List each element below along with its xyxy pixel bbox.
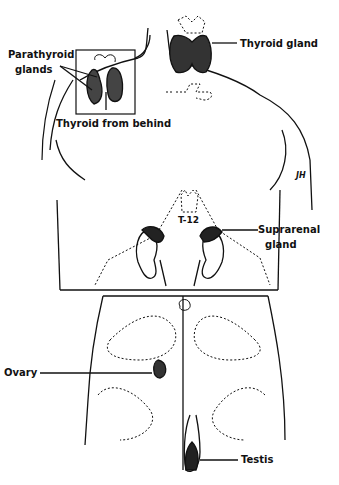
label-thyroid-from-behind: Thyroid from behind <box>56 118 171 130</box>
thyroid-gland <box>166 16 237 100</box>
pelvis <box>40 296 265 471</box>
label-suprarenal-2: gland <box>265 239 297 251</box>
label-thyroid-gland: Thyroid gland <box>240 38 318 50</box>
label-t12: T-12 <box>178 214 199 226</box>
label-suprarenal: Suprarenal <box>258 224 320 236</box>
artist-signature: JH <box>296 170 306 182</box>
label-parathyroid: Parathyroid <box>8 49 74 61</box>
label-testis: Testis <box>241 454 273 466</box>
label-ovary: Ovary <box>4 367 37 379</box>
kidneys-suprarenal <box>95 190 270 286</box>
torso-outline <box>42 28 312 445</box>
label-parathyroid-2: glands <box>15 64 53 76</box>
